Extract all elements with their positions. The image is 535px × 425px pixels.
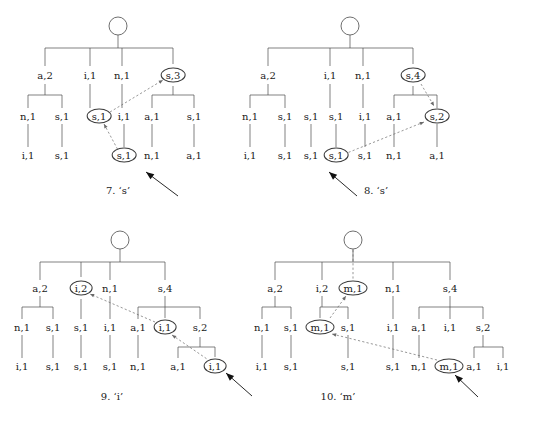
d10-l3-a1: a,1 <box>465 361 483 372</box>
d8-l2-s1a: s,1 <box>277 111 294 122</box>
d9-l3-s1c: s,1 <box>102 361 119 372</box>
d7-link-1-arrowhead <box>158 80 163 84</box>
d8-l1-n1: n,1 <box>354 70 372 81</box>
d7-l3-a1: a,1 <box>185 150 203 161</box>
d8-link-1-arrowhead <box>430 101 434 106</box>
d7-l1-s3: s,3 <box>161 68 186 83</box>
diagram-10-root-circle <box>344 231 362 249</box>
d10-l1-i2: i,2 <box>315 283 330 294</box>
d10-l2-i1b: i,1 <box>443 322 458 333</box>
d8-l3-s1b: s,1 <box>303 150 320 161</box>
d10-link-1-arrowhead <box>342 296 346 300</box>
d7-link-1 <box>110 80 163 112</box>
d8-l3-s1c: s,1 <box>324 148 349 163</box>
d8-link-2-arrowhead <box>419 122 424 125</box>
d9-l2-n1: n,1 <box>13 322 31 333</box>
d10-l1-n1: n,1 <box>384 283 402 294</box>
d8-l2-s1c: s,1 <box>328 111 345 122</box>
d8-l3-n1: n,1 <box>385 150 403 161</box>
d7-l2-i1: i,1 <box>117 111 132 122</box>
d8-l3-i1: i,1 <box>243 150 258 161</box>
d9-l3-i1b: i,1 <box>204 359 227 374</box>
diagram-8-root-circle <box>341 17 359 35</box>
diagram-8-caption: 8. ‘s’ <box>364 185 388 196</box>
diagram-10-group <box>262 231 503 397</box>
d9-l2-s1b: s,1 <box>73 322 90 333</box>
d7-l1-a2: a,2 <box>36 70 54 81</box>
d8-l2-i1: i,1 <box>358 111 373 122</box>
d10-l3-n1: n,1 <box>410 361 428 372</box>
d9-l2-s2: s,2 <box>192 322 209 333</box>
diagram-7-group <box>28 17 194 196</box>
d8-l1-s4: s,4 <box>401 68 426 83</box>
d9-l2-a1: a,1 <box>129 322 147 333</box>
d8-l1-i1: i,1 <box>323 70 338 81</box>
d7-l3-s1b: s,1 <box>112 148 137 163</box>
d10-l2-s2: s,2 <box>475 322 492 333</box>
diagram-10-caption: 10. ‘m’ <box>321 391 356 402</box>
diagram-7-caption: 7. ‘s’ <box>106 185 130 196</box>
d8-l1-a2: a,2 <box>259 70 277 81</box>
d7-pointer-head <box>146 172 154 179</box>
d9-l1-i2: i,2 <box>70 281 93 296</box>
d8-l3-s1d: s,1 <box>357 150 374 161</box>
d10-l2-n1: n,1 <box>253 322 271 333</box>
d10-l1-s4: s,4 <box>442 283 459 294</box>
d8-l2-s1b: s,1 <box>303 111 320 122</box>
d7-l2-a1: a,1 <box>143 111 161 122</box>
d7-l2-s1a: s,1 <box>54 111 71 122</box>
d7-l2-s1c: s,1 <box>186 111 203 122</box>
d10-l2-i1: i,1 <box>386 322 401 333</box>
d9-l3-s1b: s,1 <box>73 361 90 372</box>
d10-l3-m1: m,1 <box>434 359 463 374</box>
d7-l3-s1a: s,1 <box>54 150 71 161</box>
d7-l3-i1: i,1 <box>21 150 36 161</box>
d7-link-2-arrowhead <box>104 124 108 129</box>
diagram-9-root-circle <box>111 231 129 249</box>
d9-l3-n1: n,1 <box>129 361 147 372</box>
d9-l2-i1b: i,1 <box>154 320 177 335</box>
d8-l3-a1: a,1 <box>428 150 446 161</box>
d9-l3-i1: i,1 <box>15 361 30 372</box>
d7-link-2 <box>104 124 118 150</box>
d9-l3-a1: a,1 <box>169 361 187 372</box>
d7-l2-n1: n,1 <box>19 111 37 122</box>
d10-l2-a1: a,1 <box>410 322 428 333</box>
diagram-8-group <box>250 17 437 196</box>
d8-l2-a1: a,1 <box>385 111 403 122</box>
d10-l2-s1a: s,1 <box>283 322 300 333</box>
d9-l1-a2: a,2 <box>31 283 49 294</box>
figure-root: a,2i,1n,1s,3n,1s,1s,1i,1a,1s,1i,1s,1s,1n… <box>0 0 535 425</box>
d10-l3-s1c: s,1 <box>385 361 402 372</box>
d8-l3-s1a: s,1 <box>277 150 294 161</box>
d10-l3-s1a: s,1 <box>283 361 300 372</box>
d9-l3-s1a: s,1 <box>45 361 62 372</box>
d7-l1-i1: i,1 <box>83 70 98 81</box>
d8-l2-s2: s,2 <box>425 109 450 124</box>
d10-l1-a2: a,2 <box>266 283 284 294</box>
d10-link-2-arrowhead <box>332 333 337 336</box>
d10-l1-m1: m,1 <box>338 281 367 296</box>
d9-l1-s4: s,4 <box>157 283 174 294</box>
d10-l2-s1b: s,1 <box>340 322 357 333</box>
d7-l3-n1: n,1 <box>143 150 161 161</box>
d10-l3-i1: i,1 <box>255 361 270 372</box>
d10-l2-m1: m,1 <box>305 320 334 335</box>
d9-l2-i1: i,1 <box>103 322 118 333</box>
d7-l1-n1: n,1 <box>113 70 131 81</box>
d9-link-2-arrowhead <box>172 335 176 339</box>
d10-l3-i1b: i,1 <box>496 361 511 372</box>
d8-l2-n1: n,1 <box>241 111 259 122</box>
d9-l1-n1: n,1 <box>101 283 119 294</box>
d10-l3-s1b: s,1 <box>340 361 357 372</box>
d7-l2-s1b: s,1 <box>87 109 112 124</box>
diagram-9-caption: 9. ‘i’ <box>101 391 123 402</box>
d9-l2-s1a: s,1 <box>45 322 62 333</box>
diagram-7-root-circle <box>109 17 127 35</box>
d8-link-2 <box>347 122 424 153</box>
d9-link-1 <box>90 294 155 322</box>
